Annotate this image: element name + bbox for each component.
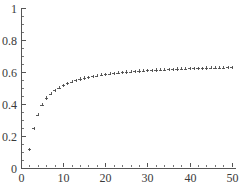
data-point-marker: [112, 72, 115, 75]
data-point-marker: [142, 69, 145, 72]
data-series-markers: [28, 66, 234, 151]
data-point-marker: [230, 66, 233, 69]
data-point-marker: [133, 70, 136, 73]
data-point-marker: [201, 67, 204, 70]
data-point-marker: [125, 70, 128, 73]
chart-figure: 00.20.40.60.81 01020304050: [0, 0, 241, 184]
data-point-marker: [108, 72, 111, 75]
data-point-marker: [163, 68, 166, 71]
data-point-marker: [87, 76, 90, 79]
data-point-marker: [121, 71, 124, 74]
y-axis-tick-label: 1: [11, 2, 17, 16]
data-point-marker: [184, 67, 187, 70]
data-point-marker: [226, 66, 229, 69]
data-point-marker: [66, 82, 69, 85]
y-axis-tick-label: 0.2: [2, 130, 17, 144]
data-point-marker: [36, 113, 39, 116]
data-point-marker: [83, 76, 86, 79]
data-point-marker: [180, 67, 183, 70]
data-point-marker: [104, 73, 107, 76]
y-axis-tick-labels: 00.20.40.60.81: [2, 2, 17, 176]
data-point-marker: [129, 70, 132, 73]
data-point-marker: [116, 71, 119, 74]
data-point-marker: [213, 66, 216, 69]
data-point-marker: [188, 67, 191, 70]
x-axis: [21, 163, 236, 169]
data-point-marker: [53, 89, 56, 92]
x-axis-tick-label: 40: [185, 171, 197, 184]
data-point-marker: [154, 68, 157, 71]
y-axis-tick-label: 0.4: [2, 98, 17, 112]
data-point-marker: [78, 77, 81, 80]
data-point-marker: [74, 79, 77, 82]
x-axis-tick-label: 30: [142, 171, 154, 184]
x-axis-tick-labels: 01020304050: [19, 171, 239, 184]
y-axis-tick-label: 0: [11, 162, 17, 176]
data-point-marker: [40, 103, 43, 106]
data-point-marker: [137, 69, 140, 72]
x-axis-tick-label: 10: [58, 171, 70, 184]
x-axis-tick-label: 50: [227, 171, 239, 184]
y-axis-tick-label: 0.6: [2, 66, 17, 80]
x-axis-tick-label: 20: [100, 171, 112, 184]
data-point-marker: [49, 92, 52, 95]
data-point-marker: [100, 73, 103, 76]
data-point-marker: [209, 66, 212, 69]
data-point-marker: [28, 148, 31, 151]
data-point-marker: [192, 67, 195, 70]
chart-canvas: 00.20.40.60.81 01020304050: [0, 0, 241, 184]
data-point-marker: [95, 74, 98, 77]
x-axis-tick-label: 0: [19, 171, 25, 184]
data-point-marker: [62, 84, 65, 87]
data-point-marker: [57, 86, 60, 89]
data-point-marker: [222, 66, 225, 69]
y-axis-tick-label: 0.8: [2, 34, 17, 48]
data-point-marker: [70, 80, 73, 83]
y-axis: [22, 8, 27, 169]
data-point-marker: [171, 68, 174, 71]
data-point-marker: [205, 66, 208, 69]
data-point-marker: [175, 67, 178, 70]
data-point-marker: [196, 67, 199, 70]
data-point-marker: [159, 68, 162, 71]
data-point-marker: [150, 69, 153, 72]
data-point-marker: [91, 75, 94, 78]
data-point-marker: [146, 69, 149, 72]
data-point-marker: [45, 96, 48, 99]
data-point-marker: [167, 68, 170, 71]
data-point-marker: [32, 127, 35, 130]
data-point-marker: [218, 66, 221, 69]
